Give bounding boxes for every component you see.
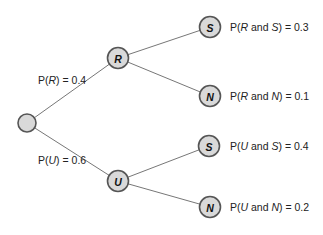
- label-p-r: P(R) = 0.4: [38, 74, 86, 86]
- node-u-s-letter: S: [205, 141, 212, 153]
- node-r-s-letter: S: [206, 22, 213, 34]
- edge-u-n: [118, 181, 210, 207]
- node-r-n: N: [200, 86, 221, 107]
- node-r-n-letter: N: [206, 91, 214, 103]
- node-u: U: [108, 171, 129, 192]
- root-node: [18, 114, 36, 132]
- edge-root-u: [27, 123, 118, 181]
- probability-tree: R U S N S N: [0, 0, 323, 235]
- edge-u-s: [118, 146, 209, 181]
- edge-r-s: [118, 27, 210, 58]
- label-p-u: P(U) = 0.6: [38, 154, 86, 166]
- label-p-u-and-s: P(U and S) = 0.4: [230, 140, 309, 152]
- label-p-u-and-n: P(U and N) = 0.2: [230, 201, 309, 213]
- label-p-r-and-s: P(R and S) = 0.3: [230, 21, 309, 33]
- label-p-r-and-n: P(R and N) = 0.1: [230, 90, 309, 102]
- node-u-letter: U: [114, 176, 122, 188]
- node-r-s: S: [200, 17, 221, 38]
- node-u-n: N: [200, 197, 221, 218]
- node-r-letter: R: [114, 53, 122, 65]
- node-u-s: S: [199, 136, 220, 157]
- edge-r-n: [118, 58, 210, 96]
- node-r: R: [108, 48, 129, 69]
- node-u-n-letter: N: [206, 202, 214, 214]
- edge-root-r: [27, 58, 118, 123]
